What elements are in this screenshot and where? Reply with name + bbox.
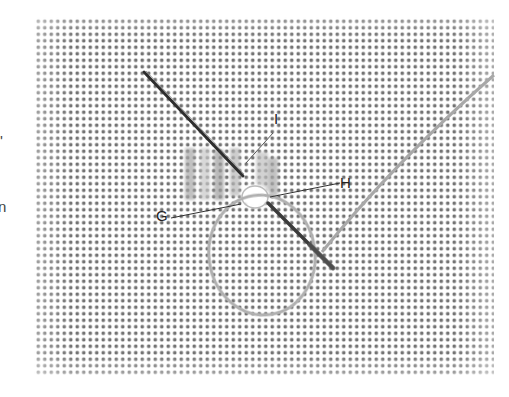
stitch-illustration — [0, 0, 509, 397]
label-g: G — [156, 208, 168, 223]
leader-line-h — [270, 183, 340, 197]
label-h: H — [340, 175, 351, 190]
working-thread — [322, 75, 494, 252]
leader-line-g — [171, 204, 241, 218]
label-i: I — [274, 111, 278, 126]
